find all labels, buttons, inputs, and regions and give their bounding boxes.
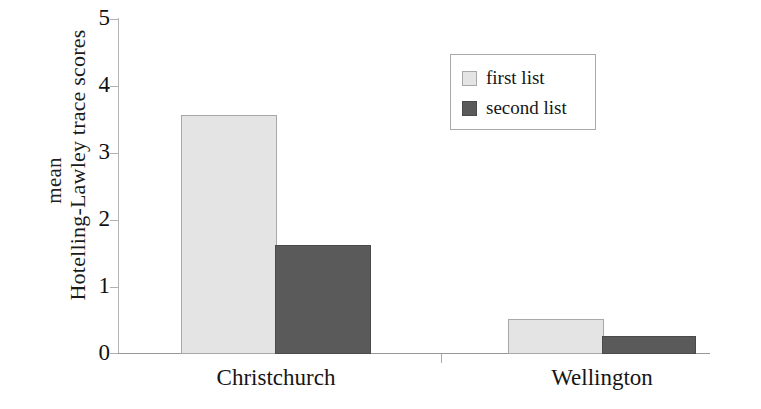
y-tick-label-4: 4: [84, 73, 110, 96]
bar-chart-figure: mean Hotelling-Lawley trace scores 5 4 3…: [0, 0, 761, 409]
legend-label-second-list: second list: [486, 97, 567, 119]
y-axis-title-mean: mean: [42, 121, 67, 241]
legend-label-first-list: first list: [486, 67, 545, 89]
bar-wellington-first-list: [508, 319, 604, 354]
legend-swatch-second-list: [462, 101, 477, 116]
y-tick-label-3: 3: [84, 140, 110, 163]
legend-swatch-first-list: [462, 71, 477, 86]
x-tick-mark-separator: [441, 354, 442, 363]
bar-wellington-second-list: [602, 336, 696, 354]
y-axis-line: [118, 18, 119, 354]
x-category-label-wellington: Wellington: [502, 365, 702, 391]
legend: first list second list: [450, 54, 596, 130]
bar-christchurch-first-list: [181, 115, 277, 354]
bar-christchurch-second-list: [275, 245, 371, 354]
legend-item-first-list: first list: [462, 63, 595, 93]
y-tick-label-0: 0: [84, 341, 110, 364]
x-category-label-christchurch: Christchurch: [176, 365, 376, 391]
legend-item-second-list: second list: [462, 93, 595, 123]
y-tick-label-5: 5: [84, 6, 110, 29]
y-tick-label-1: 1: [84, 274, 110, 297]
y-tick-label-2: 2: [84, 207, 110, 230]
